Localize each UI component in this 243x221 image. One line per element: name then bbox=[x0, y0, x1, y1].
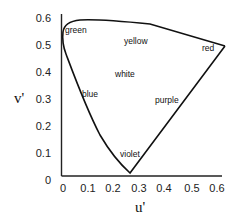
x-tick: 0.1 bbox=[80, 182, 95, 194]
label-purple: purple bbox=[155, 95, 179, 105]
y-axis-title: v' bbox=[14, 90, 25, 106]
x-axis-title: u' bbox=[135, 199, 146, 215]
label-red: red bbox=[202, 43, 215, 53]
x-tick: 0.4 bbox=[156, 182, 171, 194]
x-tick: 0 bbox=[60, 182, 66, 194]
label-white: white bbox=[114, 69, 135, 79]
chromaticity-chart: 0 0.1 0.2 0.3 0.4 0.5 0.6 0 0.1 0.2 0.3 … bbox=[0, 0, 243, 221]
x-tick: 0.6 bbox=[209, 182, 224, 194]
y-tick: 0.3 bbox=[36, 93, 51, 105]
y-tick: 0.2 bbox=[36, 120, 51, 132]
y-tick: 0.4 bbox=[36, 66, 51, 78]
y-tick: 0.1 bbox=[36, 147, 51, 159]
x-tick-labels: 0 0.1 0.2 0.3 0.4 0.5 0.6 bbox=[60, 182, 225, 194]
y-tick: 0.6 bbox=[36, 12, 51, 24]
y-tick-labels: 0 0.1 0.2 0.3 0.4 0.5 0.6 bbox=[36, 12, 51, 186]
label-blue: blue bbox=[82, 89, 98, 99]
region-labels: green yellow red white blue purple viole… bbox=[65, 25, 215, 159]
x-tick: 0.5 bbox=[184, 182, 199, 194]
y-tick: 0.5 bbox=[36, 39, 51, 51]
x-tick: 0.3 bbox=[131, 182, 146, 194]
x-tick: 0.2 bbox=[105, 182, 120, 194]
label-green: green bbox=[65, 25, 87, 35]
label-violet: violet bbox=[120, 149, 140, 159]
y-tick: 0 bbox=[45, 174, 51, 186]
label-yellow: yellow bbox=[124, 36, 148, 46]
